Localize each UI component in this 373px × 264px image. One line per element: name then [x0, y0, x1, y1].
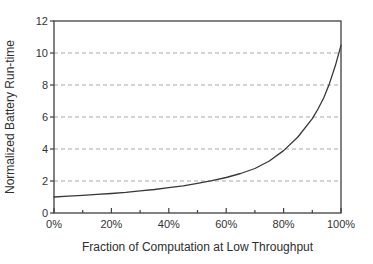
y-tick-label: 12 — [0, 16, 48, 27]
y-tick-label: 6 — [0, 112, 48, 123]
x-tick-label: 100% — [319, 219, 363, 230]
y-tick-label: 4 — [0, 144, 48, 155]
x-axis-label: Fraction of Computation at Low Throughpu… — [54, 240, 341, 254]
y-tick-label: 8 — [0, 80, 48, 91]
x-tick-label: 60% — [204, 219, 248, 230]
x-tick-label: 40% — [147, 219, 191, 230]
data-line-normalized-battery-runtime — [54, 45, 341, 197]
x-tick-label: 20% — [89, 219, 133, 230]
x-tick-label: 0% — [32, 219, 76, 230]
x-tick-label: 80% — [262, 219, 306, 230]
battery-runtime-chart: Normalized Battery Run-time Fraction of … — [0, 0, 373, 264]
y-tick-label: 0 — [0, 208, 48, 219]
y-tick-label: 2 — [0, 176, 48, 187]
y-tick-label: 10 — [0, 48, 48, 59]
